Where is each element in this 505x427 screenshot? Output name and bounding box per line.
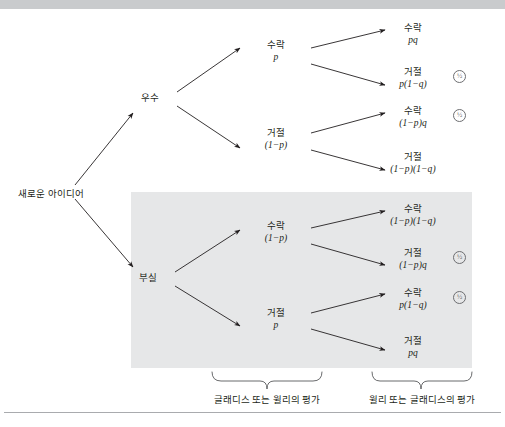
node-excellent-label: 우수 [130, 92, 170, 104]
edge-ereject-to-leaf3 [311, 113, 385, 133]
node-excellent-accept-label: 수락 [246, 39, 306, 51]
leaf-node-2: 거절 p(1−q) [382, 66, 444, 90]
leaf-node-5-label: 수락 [372, 203, 454, 215]
leaf-node-1-label: 수락 [382, 22, 444, 34]
node-excellent-reject: 거절 (1−p) [246, 127, 306, 151]
node-poor-reject-prob: p [246, 319, 306, 331]
leaf-node-5: 수락 (1−p)(1−q) [372, 203, 454, 227]
edge-root-to-excellent [75, 113, 133, 185]
leaf-node-8-label: 거절 [382, 335, 444, 347]
edge-poor-to-reject [175, 286, 240, 326]
leaf-node-2-prob: p(1−q) [382, 78, 444, 90]
edge-preject-to-leaf8 [311, 329, 385, 350]
leaf-node-3-label: 수락 [382, 105, 444, 117]
leaf-node-1: 수락 pq [382, 22, 444, 46]
leaf-node-4-prob: (1−p)(1−q) [372, 163, 454, 175]
half-credit-marker-icon-3: ½ [453, 109, 466, 122]
leaf-node-7-prob: p(1−q) [382, 299, 444, 311]
edge-excellent-to-accept [177, 48, 240, 92]
leaf-node-2-label: 거절 [382, 66, 444, 78]
root-node-new-idea: 새로운 아이디어 [18, 186, 84, 200]
leaf-node-4: 거절 (1−p)(1−q) [372, 151, 454, 175]
edge-root-to-poor [75, 199, 133, 267]
node-excellent-reject-label: 거절 [246, 127, 306, 139]
node-poor-accept-label: 수락 [246, 220, 306, 232]
edge-preject-to-leaf7 [311, 294, 385, 313]
leaf-node-3-prob: (1−p)q [382, 117, 444, 129]
node-poor-accept-prob: (1−p) [246, 232, 306, 244]
half-credit-marker-icon-7: ½ [453, 291, 466, 304]
half-credit-marker-icon-2: ½ [453, 70, 466, 83]
leaf-node-7: 수락 p(1−q) [382, 287, 444, 311]
leaf-node-6-prob: (1−p)q [382, 259, 444, 271]
node-poor-accept: 수락 (1−p) [246, 220, 306, 244]
edge-excellent-to-reject [177, 106, 240, 148]
node-poor-reject: 거절 p [246, 307, 306, 331]
brace-left [212, 372, 322, 389]
leaf-node-8-prob: pq [382, 347, 444, 359]
leaf-node-6-label: 거절 [382, 247, 444, 259]
brace-right [372, 372, 472, 389]
node-excellent-accept: 수락 p [246, 39, 306, 63]
edge-eaccept-to-leaf1 [311, 30, 385, 48]
caption-right-evaluator: 윌리 또는 글래디스의 평가 [357, 392, 487, 406]
node-excellent-reject-prob: (1−p) [246, 139, 306, 151]
node-excellent: 우수 [130, 92, 170, 104]
edge-poor-to-accept [175, 230, 240, 272]
probability-tree-figure: 새로운 아이디어 우수 부실 수락 p 거절 (1−p) 수락 (1−p) 거절… [0, 0, 505, 427]
leaf-node-1-prob: pq [382, 34, 444, 46]
caption-left-evaluator: 글래디스 또는 윌리의 평가 [202, 392, 332, 406]
node-poor-label: 부실 [128, 272, 168, 284]
leaf-node-4-label: 거절 [372, 151, 454, 163]
leaf-node-7-label: 수락 [382, 287, 444, 299]
leaf-node-6: 거절 (1−p)q [382, 247, 444, 271]
leaf-node-3: 수락 (1−p)q [382, 105, 444, 129]
half-credit-marker-icon-6: ½ [453, 251, 466, 264]
node-poor-reject-label: 거절 [246, 307, 306, 319]
edge-paccept-to-leaf6 [311, 244, 385, 265]
leaf-node-8: 거절 pq [382, 335, 444, 359]
leaf-node-5-prob: (1−p)(1−q) [372, 215, 454, 227]
node-excellent-accept-prob: p [246, 51, 306, 63]
node-poor: 부실 [128, 272, 168, 284]
edge-eaccept-to-leaf2 [311, 64, 385, 85]
